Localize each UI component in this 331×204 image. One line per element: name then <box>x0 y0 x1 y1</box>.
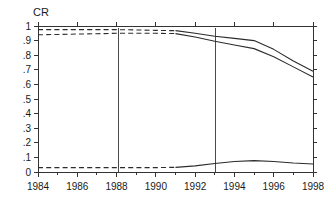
x-tick-label: 1998 <box>302 181 325 192</box>
y-tick-label: .6 <box>23 79 32 90</box>
y-tick-label: .5 <box>23 94 32 105</box>
y-tick-label: .3 <box>23 123 32 134</box>
y-tick-label: 1 <box>25 21 31 32</box>
line-chart: CR 0.1.2.3.4.5.6.7.8.91 1984198619881990… <box>0 0 331 204</box>
y-axis-title: CR <box>33 6 49 18</box>
chart-container: CR 0.1.2.3.4.5.6.7.8.91 1984198619881990… <box>0 0 331 204</box>
y-axis-title-group: CR <box>33 6 49 18</box>
x-tick-label: 1994 <box>223 181 246 192</box>
x-tick-label: 1992 <box>184 181 207 192</box>
y-tick-label: 0 <box>25 167 31 178</box>
y-tick-label: .8 <box>23 50 32 61</box>
y-axis-tick-labels: 0.1.2.3.4.5.6.7.8.91 <box>23 21 32 178</box>
y-tick-label: .4 <box>23 108 32 119</box>
x-tick-label: 1996 <box>263 181 286 192</box>
x-tick-label: 1986 <box>66 181 89 192</box>
x-tick-label: 1990 <box>145 181 168 192</box>
x-tick-label: 1988 <box>105 181 128 192</box>
y-tick-label: .1 <box>23 152 32 163</box>
x-tick-label: 1984 <box>27 181 50 192</box>
y-tick-label: .7 <box>23 64 32 75</box>
y-tick-label: .2 <box>23 137 32 148</box>
y-tick-label: .9 <box>23 35 32 46</box>
